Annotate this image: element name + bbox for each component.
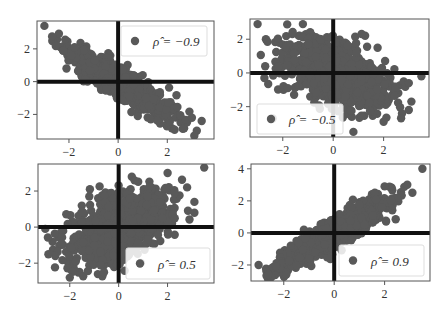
data-point	[372, 196, 380, 204]
data-point	[84, 267, 92, 275]
data-point	[363, 91, 371, 99]
data-point	[352, 39, 360, 47]
y-tick-label: 4	[238, 162, 244, 176]
data-point	[367, 78, 375, 86]
legend-label: ρ̂ = −0.5	[288, 112, 336, 127]
data-point	[178, 176, 186, 184]
data-point	[387, 196, 395, 204]
x-tick-label: 2	[165, 289, 171, 303]
data-point	[397, 114, 405, 122]
data-point	[104, 202, 112, 210]
data-point	[365, 99, 373, 107]
data-point	[274, 62, 282, 70]
legend: ρ̂ = 0.5	[126, 248, 210, 279]
data-point	[91, 217, 99, 225]
data-point	[257, 51, 265, 59]
data-point	[125, 92, 133, 100]
data-point	[392, 215, 400, 223]
data-point	[405, 79, 413, 87]
data-point	[302, 58, 310, 66]
data-point	[312, 53, 320, 61]
data-point	[172, 91, 180, 99]
y-tick-label: −2	[231, 258, 244, 272]
data-point	[78, 247, 86, 255]
data-point	[369, 211, 377, 219]
data-point	[391, 92, 399, 100]
data-point	[59, 47, 67, 55]
data-point	[79, 238, 87, 246]
data-point	[70, 43, 78, 51]
legend-label: ρ̂ = −0.9	[152, 34, 200, 49]
data-point	[323, 253, 331, 261]
x-tick-label: −2	[277, 287, 290, 301]
data-point	[360, 221, 368, 229]
x-tick-label: −2	[63, 145, 76, 159]
y-tick-label: 0	[237, 66, 243, 80]
legend: ρ̂ = 0.9	[339, 245, 424, 276]
data-point	[285, 257, 293, 265]
y-tick-label: 0	[238, 226, 244, 240]
data-point	[67, 244, 75, 252]
data-point	[40, 22, 48, 30]
data-point	[185, 215, 193, 223]
y-tick-label: 2	[24, 42, 30, 56]
data-point	[264, 270, 272, 278]
data-point	[312, 89, 320, 97]
data-point	[156, 198, 164, 206]
data-point	[254, 261, 262, 269]
data-point	[403, 181, 411, 189]
data-point	[144, 235, 152, 243]
data-point	[282, 270, 290, 278]
subplot-top-left: −202−202ρ̂ = −0.9	[17, 21, 214, 159]
data-point	[357, 112, 365, 120]
data-point	[282, 43, 290, 51]
data-point	[188, 114, 196, 122]
y-tick-label: −2	[18, 256, 31, 270]
data-point	[321, 241, 329, 249]
subplot-bottom-right: −202−2024ρ̂ = 0.9	[231, 162, 430, 301]
legend-label: ρ̂ = 0.5	[157, 257, 196, 272]
data-point	[143, 192, 151, 200]
data-point	[158, 214, 166, 222]
data-point	[126, 194, 134, 202]
data-point	[274, 35, 282, 43]
x-tick-label: 2	[381, 143, 387, 157]
data-point	[344, 41, 352, 49]
data-point	[150, 206, 158, 214]
data-point	[85, 192, 93, 200]
data-point	[310, 79, 318, 87]
x-tick-label: 0	[331, 287, 337, 301]
figure: −202−202ρ̂ = −0.9−202−202ρ̂ = −0.5−202−2…	[0, 0, 446, 316]
data-point	[130, 176, 138, 184]
data-point	[301, 234, 309, 242]
data-point	[349, 128, 357, 136]
legend-label: ρ̂ = 0.9	[370, 254, 409, 269]
data-point	[86, 201, 94, 209]
data-point	[200, 163, 208, 171]
data-point	[129, 217, 137, 225]
data-point	[62, 64, 70, 72]
data-point	[62, 210, 70, 218]
data-point	[304, 40, 312, 48]
y-tick-label: 2	[238, 194, 244, 208]
y-tick-label: 0	[25, 220, 31, 234]
data-point	[51, 263, 59, 271]
data-point	[337, 76, 345, 84]
data-point	[57, 240, 65, 248]
y-tick-label: 0	[24, 75, 30, 89]
data-point	[283, 20, 291, 28]
data-point	[142, 94, 150, 102]
legend-marker	[136, 259, 144, 267]
data-point	[367, 62, 375, 70]
y-tick-label: 2	[25, 184, 31, 198]
data-point	[314, 61, 322, 69]
data-point	[346, 217, 354, 225]
x-tick-label: 0	[330, 143, 336, 157]
y-tick-label: −2	[230, 100, 243, 114]
data-point	[408, 189, 416, 197]
data-point	[352, 49, 360, 57]
data-point	[382, 217, 390, 225]
data-point	[347, 106, 355, 114]
data-point	[190, 209, 198, 217]
y-tick-label: 2	[237, 32, 243, 46]
